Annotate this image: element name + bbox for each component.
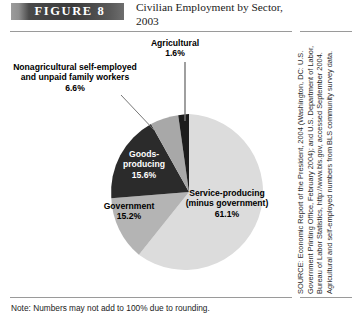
pie-chart: Agricultural 1.6% Nonagricultural self-e…: [0, 33, 295, 295]
header-divider: [10, 31, 292, 32]
source-divider-top: [300, 31, 352, 32]
leader-line-nonagricultural: [121, 95, 155, 131]
pie-label-government: Government 15.2%: [83, 201, 175, 222]
pie-label-goods-producing: Goods- producing 15.6%: [111, 149, 177, 180]
figure-title: Civilian Employment by Sector, 2003: [136, 1, 291, 28]
figure-page: FIGURE 8 Civilian Employment by Sector, …: [0, 0, 360, 321]
figure-source-container: SOURCE: Economic Report of the President…: [296, 36, 354, 294]
figure-number-banner: FIGURE 8: [11, 3, 124, 20]
footer-divider: [10, 297, 292, 298]
pie-label-agricultural: Agricultural 1.6%: [133, 38, 217, 59]
pie-label-nonagricultural: Nonagricultural self-employed and unpaid…: [3, 62, 147, 93]
figure-note: Note: Numbers may not add to 100% due to…: [11, 303, 291, 314]
figure-number-label: FIGURE 8: [11, 3, 124, 20]
pie-label-service-producing: Service-producing (minus government) 61.…: [169, 188, 285, 219]
figure-source: SOURCE: Economic Report of the President…: [296, 36, 354, 294]
source-divider-bottom: [300, 297, 352, 298]
